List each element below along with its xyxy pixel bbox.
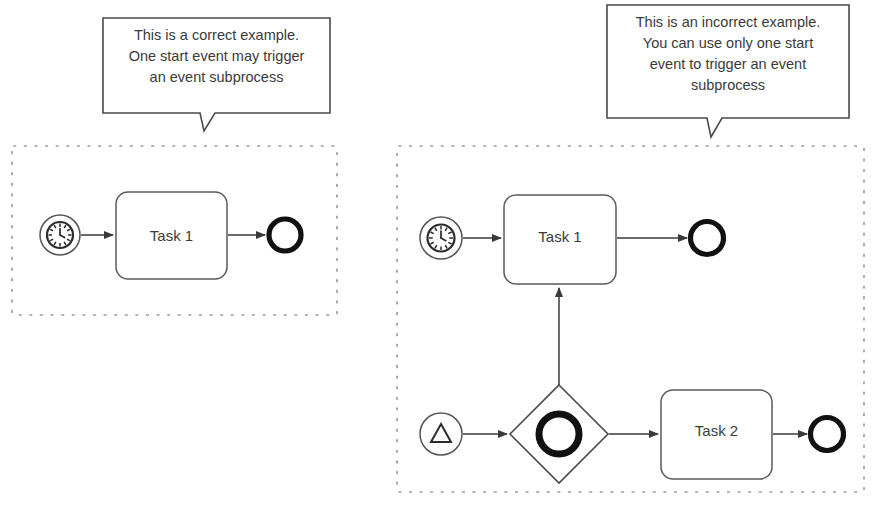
event-based-gateway bbox=[510, 385, 608, 483]
timer-start-event bbox=[40, 215, 80, 255]
timer-start-event bbox=[420, 217, 462, 259]
diagram-canvas: This is a correct example. One start eve… bbox=[0, 0, 878, 515]
end-event-thick-circle bbox=[691, 222, 724, 255]
end-event bbox=[269, 219, 301, 251]
incorrect-example-callout-text: This is an incorrect example. You can us… bbox=[611, 12, 845, 96]
start-event-outer-circle bbox=[420, 413, 462, 455]
end-event-bottom bbox=[811, 418, 844, 451]
end-event-thick-circle bbox=[811, 418, 844, 451]
event-gateway-circle-icon bbox=[539, 414, 579, 454]
task-2-label: Task 2 bbox=[661, 422, 772, 440]
correct-example-callout-text: This is a correct example. One start eve… bbox=[107, 25, 326, 88]
task-1-label: Task 1 bbox=[504, 228, 616, 246]
timer-clock-icon bbox=[428, 225, 455, 252]
event-subprocess-incorrect bbox=[397, 146, 864, 492]
end-event-top bbox=[691, 222, 724, 255]
subprocess-dotted-border bbox=[397, 146, 864, 492]
task-1-label: Task 1 bbox=[116, 227, 227, 245]
escalation-start-event bbox=[420, 413, 462, 455]
timer-clock-icon bbox=[47, 222, 73, 248]
end-event-thick-circle bbox=[269, 219, 301, 251]
